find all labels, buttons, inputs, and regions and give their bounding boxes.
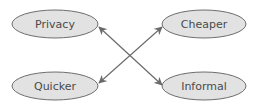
node-privacy: Privacy [12, 10, 98, 38]
node-cheaper: Cheaper [162, 10, 246, 38]
node-informal: Informal [162, 72, 246, 100]
node-label-privacy: Privacy [35, 18, 75, 31]
node-label-quicker: Quicker [34, 80, 76, 93]
node-label-cheaper: Cheaper [181, 18, 228, 31]
diagram-svg: Privacy Cheaper Quicker Informal [0, 0, 257, 108]
node-label-informal: Informal [181, 80, 227, 93]
node-quicker: Quicker [12, 72, 98, 100]
diagram-canvas: Privacy Cheaper Quicker Informal [0, 0, 257, 108]
